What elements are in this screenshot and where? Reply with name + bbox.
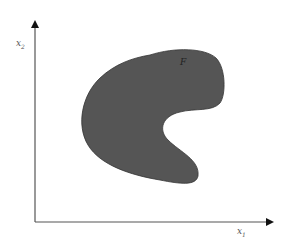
- y-axis-label: x2: [16, 38, 25, 50]
- x-axis-label: x1: [237, 226, 246, 238]
- diagram-canvas: [0, 0, 286, 242]
- region-f: [82, 50, 224, 184]
- region-label: F: [180, 57, 186, 67]
